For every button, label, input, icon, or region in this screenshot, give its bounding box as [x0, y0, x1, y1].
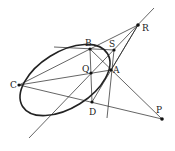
label-b: B: [85, 38, 92, 48]
line-ca: [19, 70, 111, 85]
point-p: [160, 117, 164, 121]
label-s: S: [109, 39, 115, 49]
point-d: [90, 100, 93, 103]
line-bd: [90, 49, 92, 102]
point-r: [136, 23, 140, 27]
label-c: C: [10, 80, 17, 90]
label-r: R: [142, 23, 149, 33]
label-q: Q: [82, 64, 89, 74]
label-a: A: [112, 65, 120, 75]
geometry-diagram: A B C D P Q R S: [0, 0, 175, 151]
label-d: D: [89, 107, 96, 117]
point-c: [17, 83, 20, 86]
point-q: [89, 71, 92, 74]
label-p: P: [156, 105, 162, 115]
